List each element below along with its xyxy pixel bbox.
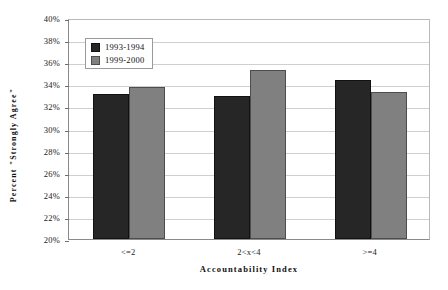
bar-group xyxy=(214,20,286,239)
y-tick-mark xyxy=(65,241,69,242)
y-tick-label: 22% xyxy=(44,213,60,223)
y-tick-label: 28% xyxy=(44,147,60,157)
y-tick-mark xyxy=(65,219,69,220)
bar[interactable] xyxy=(335,80,371,239)
legend-swatch-icon xyxy=(91,56,100,65)
bar[interactable] xyxy=(371,92,407,239)
y-tick-mark xyxy=(65,153,69,154)
y-tick-label: 20% xyxy=(44,235,60,245)
y-tick-label: 24% xyxy=(44,191,60,201)
y-tick-mark xyxy=(65,108,69,109)
legend-label: 1993-1994 xyxy=(105,42,145,52)
y-axis-title: Percent "Strongly Agree" xyxy=(0,0,26,290)
y-tick-mark xyxy=(65,131,69,132)
x-tick-label: <=2 xyxy=(121,247,135,257)
bar-chart: Percent "Strongly Agree" 40%38%36%34%32%… xyxy=(0,0,448,290)
y-tick-label: 36% xyxy=(44,58,60,68)
y-tick-label: 40% xyxy=(44,14,60,24)
x-tick-label: >=4 xyxy=(362,247,376,257)
y-tick-mark xyxy=(65,20,69,21)
bar[interactable] xyxy=(93,94,129,239)
chart-legend: 1993-19941999-2000 xyxy=(85,38,153,69)
y-tick-label: 38% xyxy=(44,36,60,46)
legend-item[interactable]: 1999-2000 xyxy=(91,55,145,65)
y-tick-label: 32% xyxy=(44,102,60,112)
x-axis-tick-labels: <=22<x<4>=4 xyxy=(68,247,430,261)
y-axis-tick-labels: 40%38%36%34%32%30%28%26%24%22%20% xyxy=(26,19,64,240)
bar-group xyxy=(335,20,407,239)
y-tick-mark xyxy=(65,64,69,65)
y-tick-label: 26% xyxy=(44,169,60,179)
x-axis-title: Accountability Index xyxy=(68,264,430,274)
y-tick-label: 34% xyxy=(44,80,60,90)
y-tick-label: 30% xyxy=(44,125,60,135)
y-tick-mark xyxy=(65,42,69,43)
y-tick-mark xyxy=(65,86,69,87)
legend-label: 1999-2000 xyxy=(105,55,145,65)
y-tick-mark xyxy=(65,175,69,176)
bar[interactable] xyxy=(214,96,250,239)
legend-swatch-icon xyxy=(91,43,100,52)
bar[interactable] xyxy=(129,87,165,239)
x-tick-label: 2<x<4 xyxy=(237,247,260,257)
legend-item[interactable]: 1993-1994 xyxy=(91,42,145,52)
y-tick-mark xyxy=(65,197,69,198)
bar[interactable] xyxy=(250,70,286,239)
